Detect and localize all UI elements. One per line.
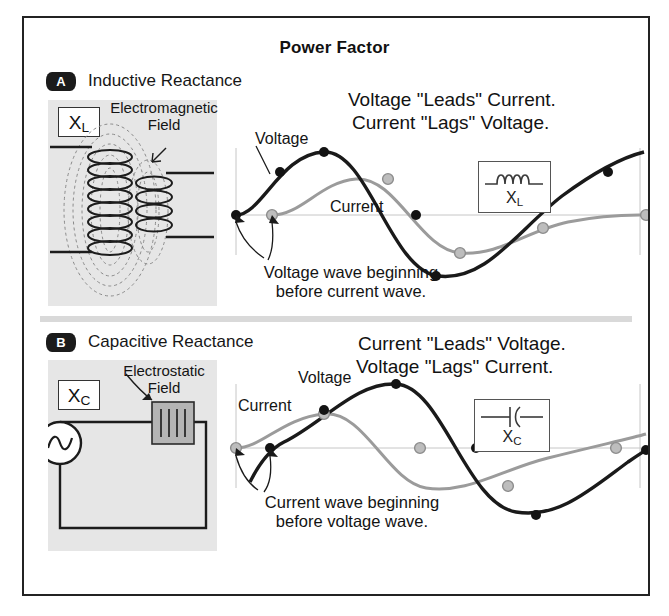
power-factor-diagram: Power Factor A Inductive Reactance XL El…	[0, 0, 669, 616]
voltage-wave-label-b: Voltage	[298, 369, 351, 387]
capacitor-symbol-label: X	[503, 428, 514, 445]
reactance-symbol-xc: X	[68, 385, 81, 406]
note-a: Voltage wave beginning before current wa…	[228, 263, 474, 302]
reactance-symbol-box-xl: XL	[58, 107, 100, 137]
current-wave-label-a: Current	[330, 198, 383, 216]
capacitor-symbol-subscript: C	[513, 435, 521, 447]
electrostatic-field-label: Electrostatic Field	[104, 363, 224, 396]
electromagnetic-field-label: Electromagnetic Field	[104, 100, 224, 133]
voltage-wave-label-a: Voltage	[255, 130, 308, 148]
inductor-symbol-subscript: L	[517, 196, 523, 208]
capacitor-icon	[475, 403, 549, 431]
phrase-b-line2: Voltage "Lags" Current.	[356, 356, 553, 378]
section-badge-a: A	[46, 72, 76, 91]
reactance-symbol-xl: X	[69, 112, 82, 133]
inductor-symbol-label: X	[506, 189, 517, 206]
reactance-symbol-box-xc: XC	[58, 380, 100, 410]
section-heading-b: Capacitive Reactance	[88, 332, 253, 352]
reactance-subscript-l: L	[82, 120, 90, 135]
note-b: Current wave beginning before voltage wa…	[226, 493, 478, 532]
page-title: Power Factor	[0, 38, 669, 58]
phrase-a-line1: Voltage "Leads" Current.	[348, 89, 556, 111]
section-badge-b: B	[46, 333, 76, 352]
section-divider	[40, 316, 632, 322]
inductor-symbol-box: XL	[478, 161, 551, 213]
capacitor-symbol-box: XC	[474, 399, 550, 452]
inductor-icon	[479, 164, 550, 192]
phrase-b-line1: Current "Leads" Voltage.	[358, 333, 566, 355]
section-heading-a: Inductive Reactance	[88, 71, 242, 91]
reactance-subscript-c: C	[80, 393, 90, 408]
phrase-a-line2: Current "Lags" Voltage.	[352, 112, 549, 134]
current-wave-label-b: Current	[238, 397, 291, 415]
